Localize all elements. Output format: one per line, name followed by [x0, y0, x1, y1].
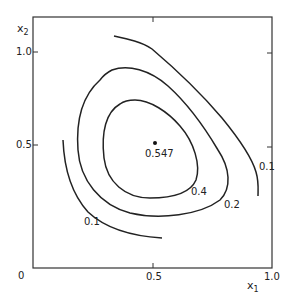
- y-tick-label-05: 0.5: [16, 140, 32, 150]
- contour-label-0.2: 0.2: [224, 200, 240, 210]
- origin-label: 0: [18, 271, 24, 281]
- contour-0.1-upper: [114, 36, 258, 196]
- maximum-value-label: 0.547: [145, 149, 174, 159]
- y-tick-label-1: 1.0: [16, 47, 32, 57]
- contour-label-0.1-lower: 0.1: [84, 217, 100, 227]
- contour-label-0.4: 0.4: [191, 187, 207, 197]
- x-tick-label-1: 1.0: [264, 272, 280, 282]
- plot-frame: [33, 17, 272, 268]
- maximum-point: [153, 141, 157, 145]
- contour-label-0.1-upper: 0.1: [259, 162, 275, 172]
- y-axis-label: x2: [17, 23, 29, 37]
- x-axis-label: x1: [247, 280, 259, 294]
- x-tick-label-05: 0.5: [146, 272, 162, 282]
